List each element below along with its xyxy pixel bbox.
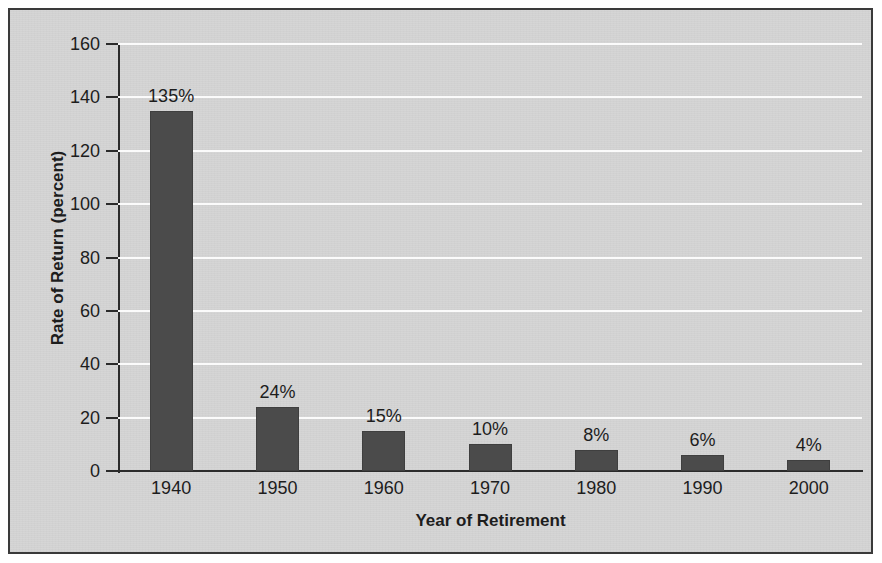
gridline <box>118 96 862 98</box>
bar-value-label: 8% <box>551 426 641 444</box>
gridline <box>118 43 862 45</box>
y-tick-label: 140 <box>30 88 100 106</box>
x-tick-label: 1940 <box>126 479 216 497</box>
y-tick-label: 60 <box>30 302 100 320</box>
y-tick-label: 160 <box>30 35 100 53</box>
gridline <box>118 150 862 152</box>
bar-value-label: 6% <box>658 431 748 449</box>
x-tick-label: 1970 <box>445 479 535 497</box>
bar-value-label: 10% <box>445 420 535 438</box>
plot-area: 135%24%15%10%8%6%4% <box>118 44 862 471</box>
x-tick-label: 2000 <box>764 479 854 497</box>
bar <box>150 111 193 471</box>
bar <box>362 431 405 471</box>
x-tick-label: 1960 <box>339 479 429 497</box>
gridline <box>118 310 862 312</box>
x-axis-title: Year of Retirement <box>118 511 863 531</box>
y-tick-label: 80 <box>30 249 100 267</box>
y-tick-label: 100 <box>30 195 100 213</box>
y-tick-label: 20 <box>30 409 100 427</box>
y-tick-label: 0 <box>30 462 100 480</box>
gridline <box>118 257 862 259</box>
bar <box>575 450 618 471</box>
bar-value-label: 24% <box>232 383 322 401</box>
bar-value-label: 15% <box>339 407 429 425</box>
bar <box>469 444 512 471</box>
y-tick-label: 120 <box>30 142 100 160</box>
figure: Rate of Return (percent) 020406080100120… <box>0 0 882 563</box>
bar <box>681 455 724 471</box>
bar <box>787 460 830 471</box>
x-tick-label: 1980 <box>551 479 641 497</box>
x-tick-label: 1990 <box>658 479 748 497</box>
gridline <box>118 363 862 365</box>
gridline <box>118 203 862 205</box>
chart-frame: Rate of Return (percent) 020406080100120… <box>8 8 873 554</box>
bar-value-label: 135% <box>126 87 216 105</box>
y-tick-label: 40 <box>30 355 100 373</box>
bar <box>256 407 299 471</box>
bar-value-label: 4% <box>764 436 854 454</box>
x-tick-label: 1950 <box>232 479 322 497</box>
gridline <box>118 417 862 419</box>
